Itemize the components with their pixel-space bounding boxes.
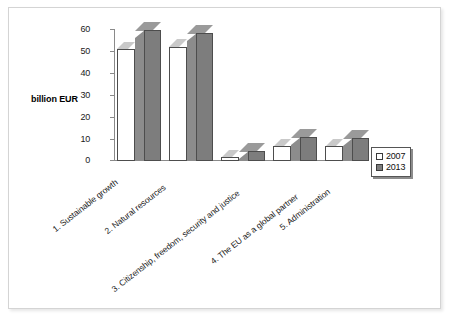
- bar-top-face: [117, 42, 135, 49]
- y-tick-label-10: 10: [68, 135, 90, 144]
- y-tick-mark-10: [110, 139, 115, 140]
- legend-label-2013: 2013: [386, 163, 405, 172]
- y-axis-title: billion EUR: [31, 94, 78, 104]
- bar-front-face: [221, 157, 239, 161]
- plot-area: 60 50 40 30 20 10 0 billion EUR: [9, 8, 441, 309]
- y-tick-mark-30: [110, 95, 115, 96]
- chart-legend: 2007 2013: [371, 147, 411, 177]
- bar-front-face: [300, 137, 317, 161]
- bar-front-face: [144, 30, 161, 161]
- y-tick-label-20: 20: [68, 113, 90, 122]
- bar-front-face: [248, 151, 265, 161]
- bar-2007-natural-resources: [169, 30, 187, 161]
- y-tick-label-60: 60: [68, 25, 90, 34]
- bar-2007-administration: [325, 137, 343, 161]
- bar-2013-eu-as-global-partner: [291, 129, 317, 161]
- legend-entry-2013: 2013: [376, 162, 405, 173]
- y-tick-label-0: 0: [68, 156, 90, 165]
- chart-figure-frame: 60 50 40 30 20 10 0 billion EUR: [8, 7, 441, 309]
- category-label-2: 2. Natural resources: [103, 183, 167, 236]
- bar-2013-citizenship-freedom-security-justice: [239, 143, 265, 161]
- bar-2007-citizenship-freedom-security-justice: [221, 148, 239, 161]
- bar-top-face: [169, 39, 187, 47]
- y-tick-mark-40: [110, 73, 115, 74]
- legend-label-2007: 2007: [386, 152, 405, 161]
- category-label-3: 3. Citizenship, freedom, security and ju…: [110, 189, 241, 294]
- bar-front-face: [117, 49, 135, 161]
- y-tick-label-50: 50: [68, 47, 90, 56]
- bar-front-face: [325, 146, 343, 161]
- y-tick-mark-20: [110, 117, 115, 118]
- bar-front-face: [352, 138, 369, 161]
- y-tick-mark-60: [110, 29, 115, 30]
- bar-front-face: [273, 146, 291, 161]
- y-tick-label-40: 40: [68, 69, 90, 78]
- bar-2007-eu-as-global-partner: [273, 136, 291, 161]
- bar-2013-natural-resources: [187, 25, 213, 161]
- y-tick-mark-0: [110, 160, 115, 161]
- bar-2013-administration: [343, 130, 369, 161]
- bar-front-face: [196, 33, 213, 161]
- bar-2013-sustainable-growth: [135, 22, 161, 161]
- legend-entry-2007: 2007: [376, 151, 405, 162]
- y-tick-mark-50: [110, 51, 115, 52]
- bar-2007-sustainable-growth: [117, 32, 135, 161]
- legend-swatch-2013: [376, 164, 383, 171]
- legend-swatch-2007: [376, 153, 383, 160]
- bar-front-face: [169, 47, 187, 161]
